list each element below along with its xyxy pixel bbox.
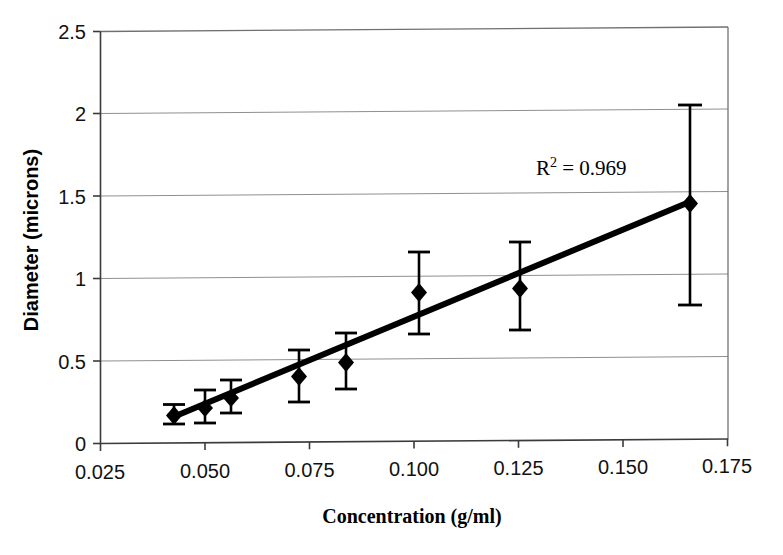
r-squared-suffix: = 0.969	[557, 156, 627, 180]
y-tick-label-2.5: 2.5	[58, 21, 86, 43]
x-axis-title: Concentration (g/ml)	[322, 505, 501, 528]
x-tick-label-0.025: 0.025	[75, 461, 125, 483]
y-tick-label-1: 1	[75, 268, 86, 290]
gridline-0.5	[100, 357, 728, 362]
gridline-1.5	[100, 192, 728, 197]
r-squared-exponent: 2	[550, 155, 557, 170]
x-tick-label-0.050: 0.050	[180, 460, 230, 482]
y-tick-label-0.5: 0.5	[58, 351, 86, 373]
r-squared-prefix: R	[536, 156, 550, 180]
data-point-5	[338, 353, 354, 372]
x-tick-labels: 0.025 0.050 0.075 0.100 0.125 0.150 0.17…	[75, 455, 752, 483]
data-point-6	[411, 283, 427, 302]
trendline	[172, 203, 687, 418]
chart-canvas: 2.5 2 1.5 1 0.5 0 0.025 0.050 0.075 0.10…	[0, 0, 783, 555]
y-tick-label-1.5: 1.5	[58, 186, 86, 208]
x-tick-label-0.100: 0.100	[389, 458, 439, 480]
frame-top	[100, 27, 728, 32]
y-tick-label-2: 2	[75, 103, 86, 125]
plot-frame	[100, 27, 728, 444]
chart-figure: 2.5 2 1.5 1 0.5 0 0.025 0.050 0.075 0.10…	[0, 0, 783, 555]
gridline-1.0	[100, 274, 728, 279]
x-tick-label-0.075: 0.075	[284, 459, 334, 481]
x-tick-label-0.175: 0.175	[702, 455, 752, 477]
gridline-2.0	[100, 109, 728, 114]
error-bars	[163, 105, 702, 424]
x-tick-label-0.125: 0.125	[493, 457, 543, 479]
data-point-7	[512, 279, 528, 298]
y-tick-label-0: 0	[75, 433, 86, 455]
data-point-8	[682, 194, 698, 213]
y-tick-labels: 2.5 2 1.5 1 0.5 0	[58, 21, 86, 455]
data-point-1	[166, 406, 182, 425]
r-squared-annotation: R2 = 0.969	[536, 155, 627, 180]
gridlines	[100, 109, 728, 361]
y-axis-title: Diameter (microns)	[20, 149, 42, 331]
x-tick-label-0.150: 0.150	[598, 456, 648, 478]
y-tick-marks	[93, 32, 100, 444]
